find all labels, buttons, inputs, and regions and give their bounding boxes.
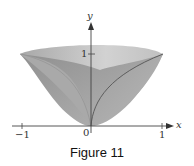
origin-label: 0: [83, 128, 89, 138]
figure-graphic: [0, 0, 194, 166]
figure-caption: Figure 11: [0, 145, 194, 160]
y-tick-label-1: 1: [81, 49, 87, 59]
x-axis-label: x: [176, 120, 182, 130]
y-axis-arrow-icon: [88, 22, 94, 30]
x-tick-label-1: 1: [159, 130, 165, 140]
x-tick-label-neg1: −1: [15, 130, 30, 140]
x-axis-arrow-icon: [166, 123, 174, 129]
y-axis-label: y: [87, 11, 93, 21]
